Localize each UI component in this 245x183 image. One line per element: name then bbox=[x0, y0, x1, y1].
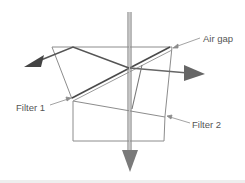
label-filter-2: Filter 2 bbox=[192, 119, 221, 130]
bottom-divider bbox=[0, 180, 245, 183]
filter-2-surface bbox=[73, 101, 165, 117]
internal-reflection bbox=[132, 65, 142, 109]
label-filter-1: Filter 1 bbox=[16, 102, 45, 113]
reflected-beam-left bbox=[24, 47, 129, 68]
incoming-beam bbox=[128, 12, 131, 160]
lower-block bbox=[73, 101, 165, 141]
left-arrow-icon bbox=[24, 55, 44, 67]
beam-splitter-diagram: Air gap Filter 1 Filter 2 bbox=[0, 0, 245, 183]
label-air-gap: Air gap bbox=[203, 33, 233, 44]
upper-prism bbox=[52, 47, 172, 116]
right-arrow-icon bbox=[184, 65, 205, 81]
filter-1-surface bbox=[72, 47, 172, 101]
transmitted-beam-arrow-icon bbox=[122, 150, 138, 172]
